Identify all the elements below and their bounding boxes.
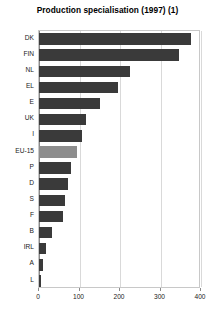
chart-title: Production specialisation (1997) (1) bbox=[0, 5, 215, 15]
bar-l bbox=[39, 275, 41, 287]
bar-i bbox=[39, 130, 82, 142]
bar-eu-15 bbox=[39, 146, 77, 158]
category-label-eu-15: EU-15 bbox=[15, 148, 34, 155]
bar-p bbox=[39, 162, 71, 174]
bar-row bbox=[39, 146, 199, 158]
tick-mark-0 bbox=[38, 288, 39, 291]
category-label-fin: FIN bbox=[23, 51, 34, 58]
bar-uk bbox=[39, 114, 86, 126]
bar-row bbox=[39, 243, 199, 255]
bar-row bbox=[39, 82, 199, 94]
bar-b bbox=[39, 227, 52, 239]
tick-mark-100 bbox=[79, 288, 80, 291]
category-label-l: L bbox=[30, 277, 34, 284]
category-label-d: D bbox=[29, 180, 34, 187]
bar-row bbox=[39, 178, 199, 190]
bar-row bbox=[39, 275, 199, 287]
category-label-b: B bbox=[30, 228, 34, 235]
chart-container: Production specialisation (1997) (1) DKF… bbox=[0, 0, 215, 316]
bar-el bbox=[39, 82, 118, 94]
bar-f bbox=[39, 211, 63, 223]
category-label-nl: NL bbox=[26, 67, 34, 74]
category-label-e: E bbox=[30, 99, 34, 106]
tick-label-200: 200 bbox=[113, 293, 124, 300]
bar-row bbox=[39, 227, 199, 239]
category-label-f: F bbox=[30, 212, 34, 219]
tick-label-100: 100 bbox=[73, 293, 84, 300]
tick-mark-200 bbox=[119, 288, 120, 291]
bar-row bbox=[39, 98, 199, 110]
bar-row bbox=[39, 195, 199, 207]
bar-s bbox=[39, 195, 65, 207]
bar-row bbox=[39, 49, 199, 61]
category-label-a: A bbox=[30, 260, 34, 267]
bar-d bbox=[39, 178, 68, 190]
bar-dk bbox=[39, 33, 191, 45]
bar-fin bbox=[39, 49, 179, 61]
category-label-el: EL bbox=[26, 83, 34, 90]
category-label-irl: IRL bbox=[24, 244, 34, 251]
category-label-p: P bbox=[30, 164, 34, 171]
bar-row bbox=[39, 130, 199, 142]
tick-label-0: 0 bbox=[36, 293, 40, 300]
bar-irl bbox=[39, 243, 46, 255]
bar-e bbox=[39, 98, 100, 110]
bar-row bbox=[39, 66, 199, 78]
plot-area bbox=[38, 30, 200, 288]
tick-label-300: 300 bbox=[154, 293, 165, 300]
category-label-s: S bbox=[30, 196, 34, 203]
bar-nl bbox=[39, 66, 130, 78]
bar-row bbox=[39, 33, 199, 45]
bar-a bbox=[39, 259, 43, 271]
tick-mark-400 bbox=[200, 288, 201, 291]
category-label-dk: DK bbox=[25, 35, 34, 42]
bar-row bbox=[39, 114, 199, 126]
category-label-i: I bbox=[32, 131, 34, 138]
bar-row bbox=[39, 162, 199, 174]
gridline-400 bbox=[201, 31, 202, 287]
bar-row bbox=[39, 211, 199, 223]
tick-mark-300 bbox=[160, 288, 161, 291]
tick-label-400: 400 bbox=[194, 293, 205, 300]
category-label-uk: UK bbox=[25, 115, 34, 122]
bar-row bbox=[39, 259, 199, 271]
